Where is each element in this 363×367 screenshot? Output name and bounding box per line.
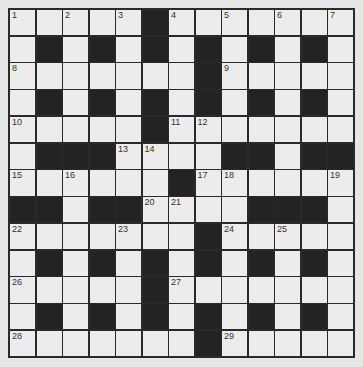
answer-cell[interactable]: 20 (143, 197, 168, 222)
answer-cell[interactable]: 13 (116, 144, 141, 169)
answer-cell[interactable] (275, 277, 300, 302)
answer-cell[interactable] (37, 63, 62, 88)
answer-cell[interactable] (222, 277, 247, 302)
answer-cell[interactable] (90, 170, 115, 195)
answer-cell[interactable] (37, 224, 62, 249)
answer-cell[interactable] (249, 277, 274, 302)
answer-cell[interactable] (196, 144, 221, 169)
answer-cell[interactable] (196, 10, 221, 35)
answer-cell[interactable] (116, 251, 141, 276)
answer-cell[interactable] (90, 331, 115, 356)
answer-cell[interactable] (169, 251, 194, 276)
answer-cell[interactable] (143, 331, 168, 356)
answer-cell[interactable] (302, 331, 327, 356)
answer-cell[interactable] (63, 63, 88, 88)
answer-cell[interactable]: 17 (196, 170, 221, 195)
answer-cell[interactable] (90, 277, 115, 302)
answer-cell[interactable] (116, 63, 141, 88)
answer-cell[interactable]: 23 (116, 224, 141, 249)
answer-cell[interactable]: 11 (169, 117, 194, 142)
answer-cell[interactable] (328, 117, 353, 142)
answer-cell[interactable] (302, 277, 327, 302)
answer-cell[interactable] (249, 63, 274, 88)
answer-cell[interactable] (10, 37, 35, 62)
answer-cell[interactable] (90, 224, 115, 249)
answer-cell[interactable]: 19 (328, 170, 353, 195)
answer-cell[interactable] (90, 63, 115, 88)
answer-cell[interactable] (249, 331, 274, 356)
answer-cell[interactable] (302, 10, 327, 35)
answer-cell[interactable] (37, 277, 62, 302)
answer-cell[interactable]: 25 (275, 224, 300, 249)
answer-cell[interactable]: 21 (169, 197, 194, 222)
answer-cell[interactable] (275, 37, 300, 62)
answer-cell[interactable] (169, 144, 194, 169)
answer-cell[interactable] (116, 90, 141, 115)
answer-cell[interactable] (169, 90, 194, 115)
answer-cell[interactable] (169, 331, 194, 356)
answer-cell[interactable]: 3 (116, 10, 141, 35)
answer-cell[interactable] (63, 224, 88, 249)
answer-cell[interactable] (116, 331, 141, 356)
answer-cell[interactable] (275, 90, 300, 115)
answer-cell[interactable] (196, 277, 221, 302)
answer-cell[interactable] (90, 117, 115, 142)
answer-cell[interactable] (196, 197, 221, 222)
answer-cell[interactable] (222, 90, 247, 115)
answer-cell[interactable]: 22 (10, 224, 35, 249)
answer-cell[interactable] (10, 304, 35, 329)
answer-cell[interactable] (275, 117, 300, 142)
answer-cell[interactable] (143, 170, 168, 195)
answer-cell[interactable]: 15 (10, 170, 35, 195)
answer-cell[interactable] (302, 63, 327, 88)
answer-cell[interactable] (302, 117, 327, 142)
answer-cell[interactable]: 16 (63, 170, 88, 195)
answer-cell[interactable] (249, 10, 274, 35)
answer-cell[interactable] (116, 170, 141, 195)
answer-cell[interactable] (63, 304, 88, 329)
answer-cell[interactable] (63, 90, 88, 115)
answer-cell[interactable] (275, 304, 300, 329)
answer-cell[interactable]: 12 (196, 117, 221, 142)
answer-cell[interactable]: 2 (63, 10, 88, 35)
answer-cell[interactable] (37, 10, 62, 35)
answer-cell[interactable] (63, 37, 88, 62)
answer-cell[interactable]: 10 (10, 117, 35, 142)
answer-cell[interactable] (63, 277, 88, 302)
answer-cell[interactable] (37, 170, 62, 195)
answer-cell[interactable] (328, 37, 353, 62)
answer-cell[interactable] (116, 37, 141, 62)
answer-cell[interactable] (275, 144, 300, 169)
answer-cell[interactable] (222, 251, 247, 276)
answer-cell[interactable] (63, 117, 88, 142)
answer-cell[interactable]: 7 (328, 10, 353, 35)
answer-cell[interactable] (169, 304, 194, 329)
answer-cell[interactable] (10, 251, 35, 276)
answer-cell[interactable]: 27 (169, 277, 194, 302)
answer-cell[interactable]: 24 (222, 224, 247, 249)
answer-cell[interactable] (328, 224, 353, 249)
answer-cell[interactable] (116, 277, 141, 302)
answer-cell[interactable] (116, 117, 141, 142)
answer-cell[interactable] (222, 37, 247, 62)
answer-cell[interactable]: 9 (222, 63, 247, 88)
answer-cell[interactable] (328, 331, 353, 356)
answer-cell[interactable]: 18 (222, 170, 247, 195)
answer-cell[interactable] (275, 251, 300, 276)
answer-cell[interactable] (222, 197, 247, 222)
answer-cell[interactable] (275, 331, 300, 356)
answer-cell[interactable]: 4 (169, 10, 194, 35)
answer-cell[interactable] (63, 197, 88, 222)
answer-cell[interactable] (37, 117, 62, 142)
answer-cell[interactable] (249, 170, 274, 195)
answer-cell[interactable] (249, 117, 274, 142)
answer-cell[interactable] (328, 90, 353, 115)
answer-cell[interactable]: 1 (10, 10, 35, 35)
answer-cell[interactable]: 28 (10, 331, 35, 356)
answer-cell[interactable]: 29 (222, 331, 247, 356)
answer-cell[interactable]: 14 (143, 144, 168, 169)
answer-cell[interactable] (10, 90, 35, 115)
answer-cell[interactable] (143, 63, 168, 88)
answer-cell[interactable] (63, 331, 88, 356)
answer-cell[interactable] (275, 170, 300, 195)
